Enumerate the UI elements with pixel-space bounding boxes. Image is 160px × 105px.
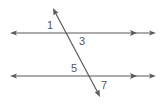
parallel-lines-transversal-diagram: 1 3 5 7 bbox=[0, 0, 160, 105]
bottom-parallel-line bbox=[10, 73, 156, 79]
angle-label-7: 7 bbox=[101, 79, 107, 91]
transversal-line bbox=[53, 8, 100, 97]
angle-label-1: 1 bbox=[47, 19, 53, 31]
angle-label-5: 5 bbox=[71, 62, 77, 74]
angle-label-3: 3 bbox=[79, 35, 85, 47]
